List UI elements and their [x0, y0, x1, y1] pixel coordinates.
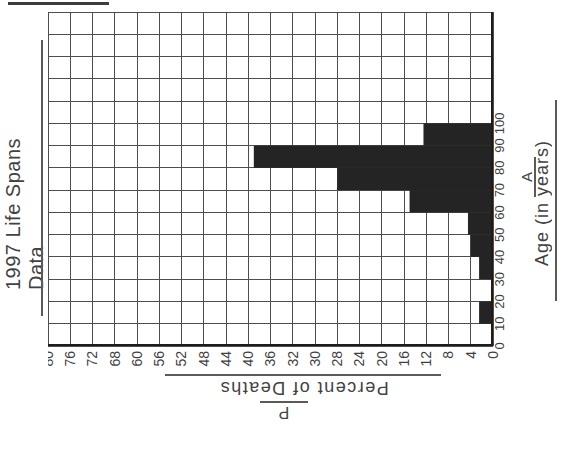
- percent-tick-label: 52: [173, 351, 189, 367]
- scanned-chart-page: 1997 Life Spans Data 8076726860565248444…: [0, 0, 580, 454]
- percent-tick-label: 60: [129, 351, 145, 367]
- percent-tick-label: 16: [396, 351, 412, 367]
- bar-age-80-90: [254, 146, 493, 168]
- percent-tick-label: 72: [84, 351, 100, 367]
- percent-tick-label: 44: [218, 351, 234, 367]
- percent-tick-label: 40: [240, 351, 256, 367]
- percent-axis-underline: [165, 374, 441, 376]
- age-tick-label: 50: [492, 227, 507, 241]
- page-edge-artifact: [8, 2, 109, 5]
- age-tick-label: 30: [492, 272, 507, 286]
- bar-age-40-50: [471, 235, 493, 257]
- percent-tick-label: 76: [62, 351, 78, 367]
- age-axis-underline: [555, 100, 557, 301]
- percent-tick-label: 30: [307, 351, 323, 367]
- age-tick-label: 20: [492, 294, 507, 308]
- percent-axis-label: Percent of Deaths: [198, 377, 410, 399]
- percent-tick-label: 4: [463, 351, 479, 359]
- percent-tick-label: 48: [196, 351, 212, 367]
- percent-tick-label: 36: [262, 351, 278, 367]
- bar-age-90-100: [423, 123, 493, 145]
- age-tick-label: 80: [492, 161, 507, 175]
- percent-tick-label: 24: [351, 351, 367, 367]
- chart-title: 1997 Life Spans Data: [9, 88, 41, 290]
- percent-tick-label: 80: [48, 351, 56, 367]
- bar-age-70-80: [337, 168, 493, 190]
- percent-tick-label: 20: [374, 351, 390, 367]
- percent-tick-label: 56: [151, 351, 167, 367]
- bar-age-50-60: [468, 212, 493, 234]
- age-tick-label: 70: [492, 183, 507, 197]
- percent-tick-label: 32: [285, 351, 301, 367]
- title-underline: [41, 40, 43, 316]
- percent-tick-label: 8: [440, 351, 456, 359]
- age-tick-label: 60: [492, 205, 507, 219]
- percent-tick-label: 28: [329, 351, 345, 367]
- age-tick-label: 90: [492, 138, 507, 152]
- age-tick-label: 0: [492, 342, 507, 349]
- percent-tick-label: 68: [107, 351, 123, 367]
- percent-tick-label: 0: [485, 351, 501, 359]
- percent-tick-label: 12: [418, 351, 434, 367]
- bar-age-60-70: [410, 190, 493, 212]
- age-tick-label: 100: [492, 112, 507, 134]
- histogram-grid: 8076726860565248444036323028242016128400…: [48, 12, 510, 390]
- age-axis-label: Age (in years): [531, 118, 553, 288]
- age-tick-label: 40: [492, 250, 507, 264]
- age-tick-label: 10: [492, 316, 507, 330]
- p-symbol: P: [272, 403, 296, 421]
